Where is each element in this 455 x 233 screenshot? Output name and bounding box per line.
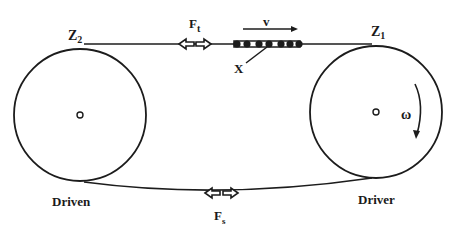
slack-force-label: Fs (214, 208, 226, 226)
chain-links (233, 40, 302, 47)
velocity-label: v (263, 14, 270, 29)
velocity-arrow-icon (243, 26, 298, 32)
driver-sprocket-center (373, 109, 379, 115)
link-label: X (234, 61, 244, 76)
driven-label: Driven (52, 194, 91, 209)
chain-drive-diagram: Z2 Z1 Ft Fs v X ω Driven Driver (0, 0, 455, 233)
driver-sprocket-circle (310, 46, 442, 178)
rotation-arrow-icon (413, 84, 421, 139)
driver-label: Driver (358, 192, 395, 207)
driven-sprocket-circle (14, 49, 146, 181)
driver-sprocket (310, 46, 442, 178)
tight-force-label: Ft (189, 16, 201, 34)
driver-tooth-label: Z1 (371, 24, 385, 41)
driven-sprocket-center (77, 112, 83, 118)
driven-tooth-label: Z2 (68, 28, 82, 45)
driven-sprocket (14, 49, 146, 181)
omega-label: ω (401, 107, 411, 122)
slack-strand (84, 178, 372, 190)
link-leader-line (246, 47, 267, 63)
